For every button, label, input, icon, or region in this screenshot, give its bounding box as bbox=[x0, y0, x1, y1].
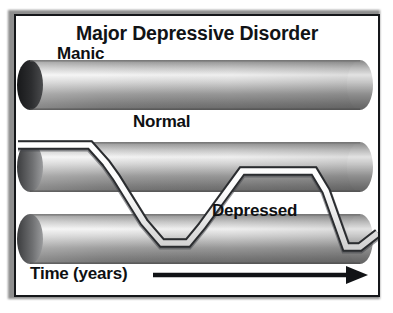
band-label-normal: Normal bbox=[133, 112, 190, 132]
chart-panel: Major Depressive Disorder Manic Normal D… bbox=[14, 14, 380, 297]
x-axis-label: Time (years) bbox=[30, 264, 127, 284]
right-arrow-icon bbox=[153, 266, 368, 284]
mood-chart-figure: Major Depressive Disorder Manic Normal D… bbox=[0, 0, 393, 313]
band-label-manic: Manic bbox=[57, 44, 104, 64]
band-manic bbox=[17, 60, 373, 110]
band-manic-end-cap bbox=[17, 60, 43, 110]
band-label-depressed: Depressed bbox=[212, 201, 297, 221]
page-title: Major Depressive Disorder bbox=[16, 22, 378, 45]
band-depressed-end-cap bbox=[17, 214, 43, 264]
